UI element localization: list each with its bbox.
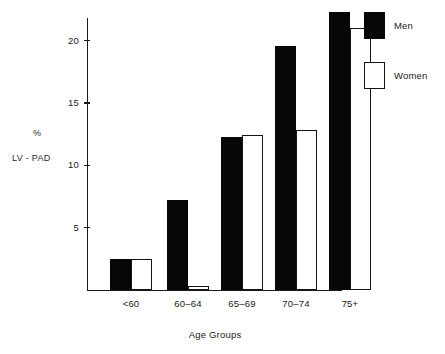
legend-swatch-men-icon xyxy=(364,12,385,39)
bar-men-3 xyxy=(275,46,296,290)
y-axis-tick-label: 15 xyxy=(53,97,79,108)
bar-men-2 xyxy=(221,137,242,290)
y-axis-tick-label: 10 xyxy=(53,159,79,170)
legend-item-women: Women xyxy=(364,62,428,89)
bar-men-4 xyxy=(329,12,350,290)
x-axis-category-label: 75+ xyxy=(322,298,378,309)
bar-women-2 xyxy=(242,135,263,290)
legend-swatch-women-icon xyxy=(364,62,385,89)
y-axis-tick xyxy=(84,227,90,228)
x-axis-category-label: 65–69 xyxy=(214,298,270,309)
x-axis-category-label: <60 xyxy=(103,298,159,309)
x-axis-category-label: 60–64 xyxy=(160,298,216,309)
y-axis-tick-label: 5 xyxy=(53,222,79,233)
bar-women-0 xyxy=(131,259,152,290)
x-axis-line xyxy=(87,290,342,291)
legend-label-women: Women xyxy=(394,70,428,81)
y-axis-tick xyxy=(84,102,90,103)
bar-women-3 xyxy=(296,130,317,290)
y-axis-tick xyxy=(84,40,90,41)
y-axis-tick-label: 20 xyxy=(53,35,79,46)
legend-label-men: Men xyxy=(394,20,413,31)
chart-figure: % LV - PAD 5101520<6060–6465–6970–7475+ … xyxy=(0,0,445,354)
x-axis-category-label: 70–74 xyxy=(268,298,324,309)
bar-men-1 xyxy=(167,200,188,290)
bar-men-0 xyxy=(110,259,131,290)
y-axis-tick xyxy=(84,165,90,166)
y-axis-line xyxy=(87,18,88,291)
legend-item-men: Men xyxy=(364,12,413,39)
x-axis-title: Age Groups xyxy=(0,329,430,340)
plot-area: 5101520<6060–6465–6970–7475+ xyxy=(0,0,445,354)
bar-women-1 xyxy=(188,286,209,290)
